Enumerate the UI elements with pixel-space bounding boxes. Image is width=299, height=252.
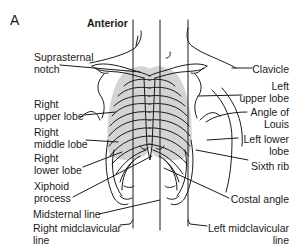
label-line: Louis (250, 118, 289, 130)
label-line: lower lobe (34, 164, 82, 176)
label-line: Angle of (250, 106, 289, 118)
label-line: Suprasternal (34, 51, 94, 63)
label-line: Sixth rib (251, 160, 289, 172)
label-line: Costal angle (231, 193, 289, 205)
label-right-lower-lobe: Right lower lobe (34, 152, 82, 176)
label-line: Midsternal line (33, 208, 101, 220)
label-midsternal-line: Midsternal line (33, 208, 101, 220)
neck-outline (90, 28, 236, 68)
label-line: Left midclavicular (208, 222, 289, 234)
view-title: Anterior (87, 17, 128, 29)
label-line: lobe (243, 145, 289, 157)
label-line: Xiphoid (34, 180, 71, 192)
label-line: line (208, 234, 289, 246)
label-clavicle: Clavicle (252, 63, 289, 75)
label-line: Right (34, 152, 82, 164)
panel-letter: A (10, 12, 19, 28)
label-costal-angle: Costal angle (231, 193, 289, 205)
label-right-midclavicular-line: Right midclavicular line (33, 222, 121, 246)
label-angle-of-louis: Angle of Louis (250, 106, 289, 130)
label-line: Right (34, 126, 88, 138)
anterior-thorax-diagram: A Anterior Suprasternal notch Right uppe… (0, 0, 299, 252)
label-line: process (34, 192, 71, 204)
label-line: line (33, 234, 121, 246)
label-line: upper lobe (34, 110, 84, 122)
label-line: Right midclavicular (33, 222, 121, 234)
label-right-middle-lobe: Right middle lobe (34, 126, 88, 150)
label-line: Clavicle (252, 63, 289, 75)
label-left-upper-lobe: Left upper lobe (239, 80, 289, 104)
label-sixth-rib: Sixth rib (251, 160, 289, 172)
label-line: middle lobe (34, 138, 88, 150)
label-line: Left lower (243, 133, 289, 145)
label-line: Left (239, 80, 289, 92)
label-line: Right (34, 98, 84, 110)
label-line: notch (34, 63, 94, 75)
label-line: upper lobe (239, 92, 289, 104)
label-suprasternal-notch: Suprasternal notch (34, 51, 94, 75)
label-right-upper-lobe: Right upper lobe (34, 98, 84, 122)
label-xiphoid-process: Xiphoid process (34, 180, 71, 204)
label-left-midclavicular-line: Left midclavicular line (208, 222, 289, 246)
label-left-lower-lobe: Left lower lobe (243, 133, 289, 157)
